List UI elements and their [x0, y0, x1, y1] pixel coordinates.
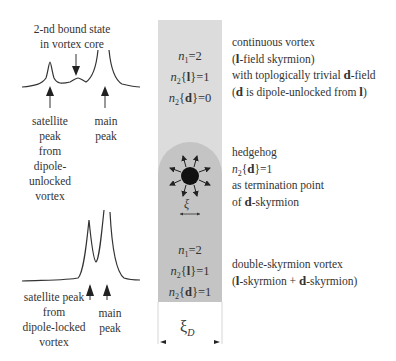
bottom-quantum-numbers: n1=2 n2{l}=1 n2{d}=1 [158, 240, 222, 303]
label-line: dipole- [18, 159, 82, 174]
hedgehog-annotation: hedgehog n2{d}=1 as termination point of… [232, 144, 324, 210]
n2-l-bottom: n2{l}=1 [158, 261, 222, 282]
annotation-line: hedgehog [232, 144, 324, 161]
top-quantum-numbers: n1=2 n2{l}=1 n2{d}=0 [158, 46, 222, 109]
n1-bottom: n1=2 [158, 240, 222, 261]
top-main-label: main peak [88, 114, 124, 144]
double-skyrmion-annotation: double-skyrmion vortex (l-skyrmion + d-s… [232, 256, 357, 289]
annotation-line: (l-field skyrmion) [232, 51, 376, 68]
n1-top: n1=2 [158, 46, 222, 67]
xi-subscript: D [187, 327, 194, 338]
label-line: from [18, 144, 82, 159]
label-line: from [14, 305, 94, 320]
label-line: satellite peak [14, 290, 94, 305]
label-line: main [88, 114, 124, 129]
bottom-main-label: main peak [92, 306, 128, 336]
label-line: dipole-locked [14, 320, 94, 335]
annotation-line: (d is dipole-unlocked from l) [232, 84, 376, 101]
annotation-line: with toplogically trivial d-field [232, 67, 376, 84]
annotation-line: continuous vortex [232, 34, 376, 51]
label-line: vortex [14, 335, 94, 350]
annotation-line: double-skyrmion vortex [232, 256, 357, 273]
annotation-line: n2{d}=1 [232, 161, 324, 178]
label-line: peak [88, 129, 124, 144]
n2-l-top: n2{l}=1 [158, 67, 222, 88]
bound-state-label: 2-nd bound state in vortex core [22, 22, 122, 52]
bottom-spectrum-curve [0, 200, 160, 300]
coherence-length-label: ξ [184, 197, 189, 212]
label-line: unlocked [18, 174, 82, 189]
hedgehog-icon [158, 142, 222, 222]
label-line: main [92, 306, 128, 321]
top-satellite-label: satellite peak from dipole- unlocked vor… [18, 114, 82, 204]
label-line: peak [18, 129, 82, 144]
dipole-length-label: ξD [180, 318, 194, 336]
label-line: peak [92, 321, 128, 336]
annotation-line: as termination point [232, 177, 324, 194]
continuous-vortex-annotation: continuous vortex (l-field skyrmion) wit… [232, 34, 376, 100]
annotation-line: (l-skyrmion + d-skyrmion) [232, 273, 357, 290]
label-line: in vortex core [22, 37, 122, 52]
n2-d-top: n2{d}=0 [158, 88, 222, 109]
bottom-satellite-label: satellite peak from dipole-locked vortex [14, 290, 94, 350]
annotation-line: of d-skyrmion [232, 194, 324, 211]
label-line: satellite [18, 114, 82, 129]
top-spectrum-curve [0, 0, 160, 120]
label-line: 2-nd bound state [22, 22, 122, 37]
